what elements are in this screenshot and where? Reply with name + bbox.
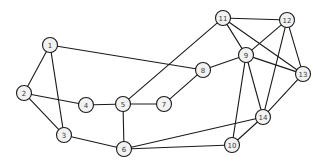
graph-edge [28,52,47,87]
graph-edge [238,122,258,140]
graph-edge [265,27,285,109]
graph-canvas: 1234567891011121314 [0,0,326,168]
graph-edge [129,23,218,99]
graph-node-2[interactable]: 2 [17,86,32,101]
graph-node-9[interactable]: 9 [239,48,254,63]
graph-node-8[interactable]: 8 [196,63,211,78]
graph-node-circle[interactable] [216,11,231,26]
graph-edge [29,98,59,129]
graph-node-5[interactable]: 5 [116,97,131,112]
graph-node-circle[interactable] [57,128,72,143]
graph-node-13[interactable]: 13 [296,67,311,82]
graph-node-circle[interactable] [239,48,254,63]
graph-edge [227,24,242,48]
graph-node-10[interactable]: 10 [225,138,240,153]
graph-edge [210,57,239,67]
graph-node-circle[interactable] [280,13,295,28]
node-layer: 1234567891011121314 [17,11,311,157]
graph-node-7[interactable]: 7 [157,97,172,112]
graph-edge [170,75,198,99]
graph-edge [233,62,245,137]
graph-node-14[interactable]: 14 [256,110,271,125]
graph-edge [229,22,297,69]
graph-edge [131,145,224,148]
graph-edge [231,18,280,20]
graph-node-1[interactable]: 1 [43,38,58,53]
graph-edge [268,79,298,111]
graph-node-circle[interactable] [117,142,132,157]
graph-node-12[interactable]: 12 [280,13,295,28]
graph-edge [94,104,116,105]
graph-node-circle[interactable] [196,63,211,78]
graph-node-circle[interactable] [157,97,172,112]
graph-edge [123,112,124,142]
graph-node-circle[interactable] [225,138,240,153]
graph-node-6[interactable]: 6 [117,142,132,157]
graph-edge [289,27,301,67]
graph-edge [248,62,261,110]
graph-node-4[interactable]: 4 [79,98,94,113]
graph-node-11[interactable]: 11 [216,11,231,26]
graph-node-3[interactable]: 3 [57,128,72,143]
graph-edge [71,137,116,148]
graph-node-circle[interactable] [79,98,94,113]
graph-diagram: 1234567891011121314 [0,0,326,168]
graph-node-circle[interactable] [256,110,271,125]
graph-edge [57,46,195,69]
graph-edge [51,52,63,127]
graph-edge [31,94,78,103]
graph-node-circle[interactable] [43,38,58,53]
graph-node-circle[interactable] [116,97,131,112]
graph-node-circle[interactable] [17,86,32,101]
graph-edge [252,25,282,50]
graph-node-circle[interactable] [296,67,311,82]
